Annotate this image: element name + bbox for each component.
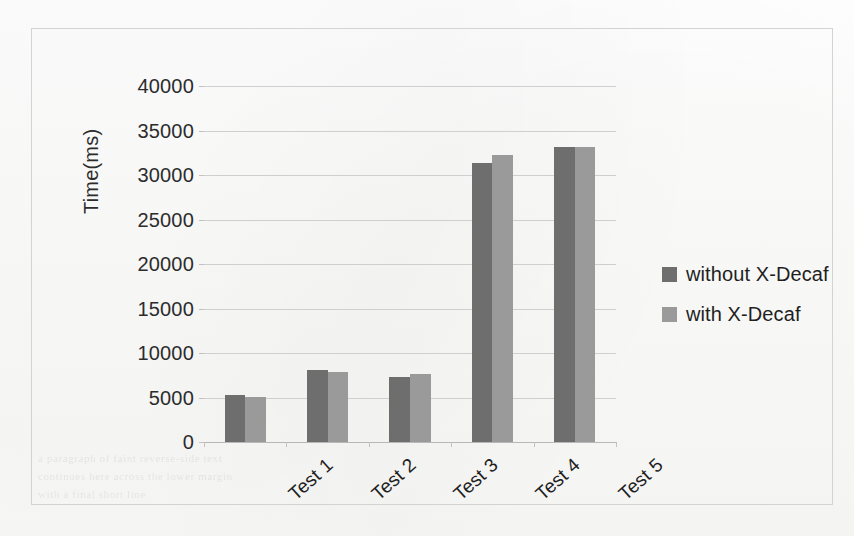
y-axis-tick-mark	[199, 220, 204, 221]
x-axis-tick-mark	[451, 442, 452, 447]
x-axis-tick-mark	[286, 442, 287, 447]
y-axis-tick-mark	[199, 86, 204, 87]
bar	[225, 395, 246, 442]
y-axis-tick-mark	[199, 353, 204, 354]
legend-swatch-icon	[662, 267, 677, 282]
legend-item-label: with X-Decaf	[686, 303, 801, 326]
bar	[554, 147, 575, 442]
bar-group	[472, 86, 513, 442]
bar	[307, 370, 328, 442]
bar-group	[225, 86, 266, 442]
x-axis-tick-label: Test 4	[532, 454, 585, 505]
y-axis-tick-label: 40000	[137, 75, 194, 98]
x-axis-tick-mark	[534, 442, 535, 447]
x-axis-tick-label: Test 5	[614, 454, 667, 505]
y-axis-tick-label: 10000	[137, 342, 194, 365]
y-axis-tick-label: 5000	[149, 386, 194, 409]
y-axis-tick-label: 35000	[137, 119, 194, 142]
x-axis-tick-mark	[369, 442, 370, 447]
x-axis-tick-label: Test 2	[367, 454, 420, 505]
bar-group	[307, 86, 348, 442]
x-axis-tick-mark	[616, 442, 617, 447]
bar-group	[554, 86, 595, 442]
y-axis-tick-mark	[199, 131, 204, 132]
bar	[472, 163, 493, 442]
y-axis-tick-label: 20000	[137, 253, 194, 276]
bar	[410, 374, 431, 442]
y-axis-tick-mark	[199, 398, 204, 399]
y-axis-tick-mark	[199, 309, 204, 310]
legend-item-label: without X-Decaf	[686, 263, 829, 286]
legend-swatch-icon	[662, 307, 677, 322]
bar	[575, 147, 596, 442]
bar	[328, 372, 349, 442]
bar	[492, 155, 513, 442]
x-axis-tick-mark	[204, 442, 205, 447]
legend-item[interactable]: with X-Decaf	[662, 303, 829, 326]
x-axis-tick-label: Test 3	[449, 454, 502, 505]
plot-area	[204, 86, 616, 442]
x-axis-tick-label: Test 1	[285, 454, 338, 505]
y-axis-tick-label: 15000	[137, 297, 194, 320]
y-axis-tick-label: 25000	[137, 208, 194, 231]
bar-group	[389, 86, 430, 442]
y-axis-tick-mark	[199, 175, 204, 176]
y-axis-tick-mark	[199, 264, 204, 265]
gridline	[204, 442, 616, 443]
bar	[389, 377, 410, 442]
bar	[245, 397, 266, 442]
y-axis-tick-label: 0	[183, 431, 194, 454]
y-axis-tick-label: 30000	[137, 164, 194, 187]
chart-legend: without X-Decafwith X-Decaf	[662, 263, 829, 343]
y-axis-title: Time(ms)	[80, 129, 103, 214]
y-axis-tick-labels: 0500010000150002000025000300003500040000	[120, 86, 194, 442]
chart-frame: Time(ms) 0500010000150002000025000300003…	[31, 28, 833, 505]
legend-item[interactable]: without X-Decaf	[662, 263, 829, 286]
